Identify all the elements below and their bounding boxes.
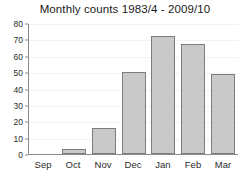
y-axis-tick-label: 20: [14, 117, 23, 127]
y-axis-tick-label: 0: [18, 150, 23, 160]
y-axis-tick-label: 50: [14, 68, 23, 78]
x-axis-tick-label: Nov: [88, 156, 118, 170]
bar: [122, 72, 146, 154]
bar-slot: [119, 24, 149, 154]
bar-slot: [208, 24, 238, 154]
bar-slot: [178, 24, 208, 154]
x-axis-tick-label: Dec: [118, 156, 148, 170]
plot-area: [28, 24, 238, 155]
x-axis: SepOctNovDecJanFebMar: [28, 156, 238, 176]
y-axis: 01020304050607080: [0, 0, 28, 182]
bar-slot: [29, 24, 59, 154]
chart-title: Monthly counts 1983/4 - 2009/10: [0, 3, 250, 15]
bar: [62, 149, 86, 154]
bar: [92, 128, 116, 154]
x-axis-tick-label: Sep: [28, 156, 58, 170]
bar-chart: Monthly counts 1983/4 - 2009/10 01020304…: [0, 0, 250, 182]
bar: [211, 74, 235, 154]
x-axis-tick-label: Feb: [178, 156, 208, 170]
y-axis-tick-label: 30: [14, 101, 23, 111]
bar-slot: [89, 24, 119, 154]
bar: [181, 44, 205, 154]
x-axis-tick-label: Mar: [208, 156, 238, 170]
x-axis-tick-label: Jan: [148, 156, 178, 170]
bar-series: [29, 24, 238, 154]
y-axis-tick-label: 80: [14, 19, 23, 29]
y-axis-tick-label: 40: [14, 85, 23, 95]
y-axis-tick-label: 10: [14, 134, 23, 144]
bar-slot: [59, 24, 89, 154]
x-axis-tick-label: Oct: [58, 156, 88, 170]
bar: [151, 36, 175, 154]
bar-slot: [148, 24, 178, 154]
y-axis-tick-label: 70: [14, 35, 23, 45]
y-axis-tick-label: 60: [14, 52, 23, 62]
